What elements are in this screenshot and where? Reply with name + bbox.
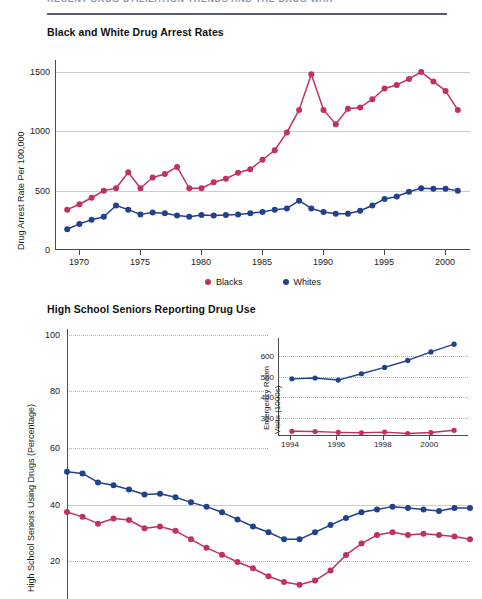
inset-xtick-label-1998: 1998 <box>374 440 392 449</box>
legend-label-whites: Whites <box>294 277 322 287</box>
xtick-2000 <box>445 250 446 255</box>
running-head-text: RECENT DRUG UTILIZATION TRENDS AND THE D… <box>47 0 447 4</box>
inset-ytick-label-600: 600 <box>252 352 274 361</box>
chart-1-xtick-label-1995: 1995 <box>374 257 394 267</box>
chart-1-xtick-label-1975: 1975 <box>130 257 150 267</box>
chart-1-xtick-label-1990: 1990 <box>313 257 333 267</box>
emergency-room-visits-chart <box>278 338 468 436</box>
chart-2-ytick-label-80: 80 <box>32 386 60 396</box>
legend-dot-whites <box>283 279 289 285</box>
inset-y-axis-title-line1: Emergency Room <box>262 366 272 430</box>
inset-y-axis-title-line2: Visits (1000s) <box>273 386 283 434</box>
legend-item-blacks[interactable]: Blacks <box>205 277 243 287</box>
chart-2-ytick-label-20: 20 <box>32 556 60 566</box>
xtick-1980 <box>201 250 202 255</box>
chart-1-y-axis-title: Drug Arrest Rate Per 100,000 <box>16 131 26 250</box>
xtick-1995 <box>384 250 385 255</box>
chart-1-xtick-label-1970: 1970 <box>69 257 89 267</box>
chart-1-legend: Blacks Whites <box>205 277 321 287</box>
figure-2-title: High School Seniors Reporting Drug Use <box>47 303 256 315</box>
chart-2-ytick-label-40: 40 <box>32 500 60 510</box>
header-rule <box>47 13 447 15</box>
xtick-1990 <box>323 250 324 255</box>
page: RECENT DRUG UTILIZATION TRENDS AND THE D… <box>0 0 482 599</box>
inset-xtick-label-1996: 1996 <box>327 440 345 449</box>
chart-2-ytick-label-100: 100 <box>32 330 60 340</box>
legend-label-blacks: Blacks <box>216 277 243 287</box>
figure-1-title: Black and White Drug Arrest Rates <box>47 26 224 38</box>
drug-arrest-rates-chart <box>55 60 470 250</box>
chart-1-series <box>55 60 470 250</box>
xtick-1970 <box>79 250 80 255</box>
chart-2-y-axis-title: High School Seniors Using Drugs (Percent… <box>26 404 36 592</box>
inset-xtick-label-2000: 2000 <box>420 440 438 449</box>
legend-item-whites[interactable]: Whites <box>283 277 322 287</box>
xtick-1975 <box>140 250 141 255</box>
inset-plot <box>278 338 468 436</box>
chart-1-xtick-label-1980: 1980 <box>191 257 211 267</box>
inset-series <box>278 338 468 436</box>
chart-1-plot <box>55 60 470 250</box>
running-head: RECENT DRUG UTILIZATION TRENDS AND THE D… <box>47 0 447 7</box>
inset-xtick-label-1994: 1994 <box>281 440 299 449</box>
xtick-1985 <box>262 250 263 255</box>
chart-1-xtick-label-1985: 1985 <box>252 257 272 267</box>
legend-dot-blacks <box>205 279 211 285</box>
chart-1-ytick-label-1500: 1500 <box>20 67 50 77</box>
chart-2-ytick-label-60: 60 <box>32 443 60 453</box>
chart-1-xtick-label-2000: 2000 <box>435 257 455 267</box>
